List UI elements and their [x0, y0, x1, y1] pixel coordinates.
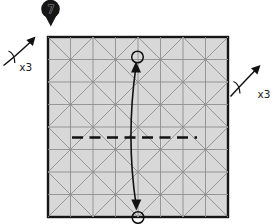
origami-diagram: 7 x3 x3 [0, 0, 273, 224]
step-badge: 7 [41, 0, 60, 26]
step-badge-pin-tail [45, 16, 57, 27]
step-number: 7 [48, 3, 55, 16]
repeat-count-left: x3 [19, 61, 32, 73]
paper-group [48, 37, 228, 223]
repeat-annotation-left: x3 [4, 37, 36, 74]
repeat-annotation-right: x3 [231, 65, 271, 100]
repeat-arrow-right-icon [231, 70, 257, 97]
repeat-count-right: x3 [258, 88, 271, 100]
